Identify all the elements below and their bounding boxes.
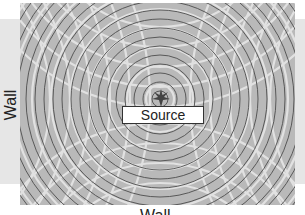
source-label: Source (122, 106, 204, 124)
bottom-wall-label: Wall (140, 207, 171, 215)
left-wall-label: Wall (2, 85, 22, 125)
starburst-icon (152, 89, 170, 107)
